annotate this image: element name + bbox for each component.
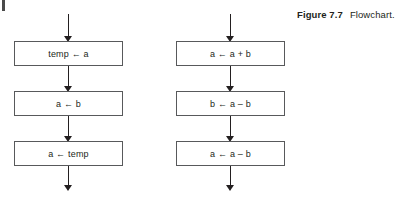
process-box[interactable]: a ← a + b: [176, 41, 285, 66]
exit-connector-line: [230, 166, 231, 186]
process-box-label: a ← temp: [48, 149, 89, 159]
connector-line: [68, 66, 69, 88]
page-margin-mark: [2, 0, 5, 11]
connector-line: [230, 66, 231, 88]
exit-arrowhead-icon: [226, 185, 234, 191]
connector-line: [68, 116, 69, 138]
process-box-label: b ← a – b: [210, 99, 251, 109]
process-box[interactable]: b ← a – b: [176, 91, 285, 116]
flowchart-swap-using-temp: temp ← a a ← b a ← temp: [14, 0, 124, 202]
figure-caption-label: Figure 7.7: [297, 9, 343, 20]
figure-caption-text: Flowchart.: [350, 9, 395, 20]
process-box-label: a ← b: [56, 99, 81, 109]
figure-page: temp ← a a ← b a ← temp a ← a + b b ← a …: [0, 0, 418, 202]
exit-arrowhead-icon: [64, 185, 72, 191]
exit-connector-line: [68, 166, 69, 186]
entry-connector-line: [230, 14, 231, 38]
process-box-label: a ← a + b: [210, 49, 251, 59]
process-box[interactable]: a ← b: [14, 91, 123, 116]
flowchart-swap-using-arithmetic: a ← a + b b ← a – b a ← a – b: [176, 0, 286, 202]
entry-connector-line: [68, 14, 69, 38]
process-box[interactable]: temp ← a: [14, 41, 123, 66]
process-box-label: a ← a – b: [210, 149, 251, 159]
figure-caption: Figure 7.7Flowchart.: [297, 9, 395, 20]
process-box[interactable]: a ← a – b: [176, 141, 285, 166]
process-box-label: temp ← a: [48, 49, 89, 59]
connector-line: [230, 116, 231, 138]
process-box[interactable]: a ← temp: [14, 141, 123, 166]
